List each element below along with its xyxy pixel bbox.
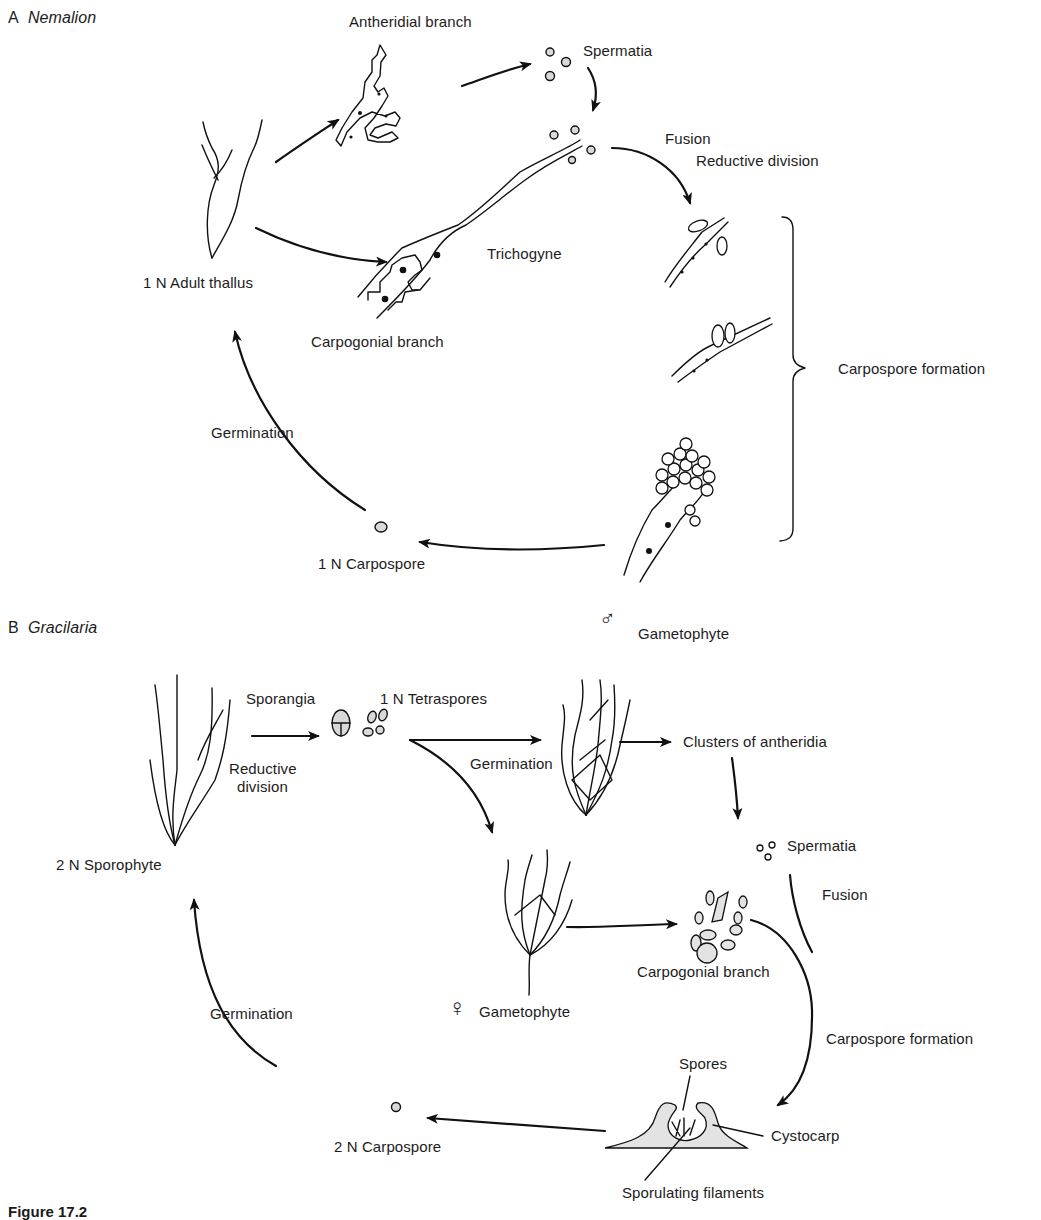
spermatia-b-drawing (757, 842, 775, 860)
fusion-stage-drawing (665, 218, 728, 287)
carpogonial-branch-label: Carpogonial branch (311, 333, 444, 351)
spermatia-b-label: Spermatia (787, 837, 856, 855)
clusters-of-antheridia-label: Clusters of antheridia (683, 733, 827, 751)
antheridial-branch-drawing (336, 45, 400, 146)
sporulating-filaments-label: Sporulating filaments (622, 1184, 764, 1202)
carpogonial-branch-b-label: Carpogonial branch (637, 963, 770, 981)
germination-a-label: Germination (211, 424, 294, 442)
spermatia-drawing (546, 48, 571, 81)
panel-b-title: B Gracilaria (8, 619, 97, 637)
division-label: division (237, 778, 288, 796)
panel-a-arrows (235, 64, 690, 549)
tetraspores-drawing (332, 708, 389, 736)
reductive-division-label: Reductive division (696, 152, 819, 170)
carpospore-formation-bracket (780, 217, 805, 541)
germination-b-top-label: Germination (470, 755, 553, 773)
tetraspores-label: 1 N Tetraspores (380, 690, 487, 708)
carpogonial-branch-drawing (358, 126, 595, 318)
carpogonial-branch-b-drawing (691, 891, 747, 963)
female-gametophyte-label: Gametophyte (479, 1003, 570, 1021)
adult-thallus-label: 1 N Adult thallus (143, 274, 253, 292)
fusion-label: Fusion (665, 130, 711, 148)
antheridial-branch-label: Antheridial branch (349, 13, 472, 31)
male-symbol: ♂ (599, 610, 616, 628)
panel-a-title: A Nemalion (8, 9, 96, 27)
sporophyte-drawing (150, 675, 230, 845)
reductive-label: Reductive (229, 760, 297, 778)
fusion-curve (751, 920, 812, 1105)
panel-a-genus: Nemalion (28, 9, 96, 26)
germination-b-left-label: Germination (210, 1005, 293, 1023)
cystocarp-drawing (605, 1076, 763, 1180)
sporangia-label: Sporangia (246, 690, 315, 708)
carpospore-b-label: 2 N Carpospore (334, 1138, 441, 1156)
sporophyte-label: 2 N Sporophyte (56, 856, 162, 874)
mature-carposporophyte-drawing (624, 438, 715, 582)
spermatia-label: Spermatia (583, 42, 652, 60)
fusion-b-label: Fusion (822, 886, 868, 904)
spermatia-join-curve (790, 875, 812, 952)
male-gametophyte-label: Gametophyte (638, 625, 729, 643)
female-symbol: ♀ (448, 999, 466, 1017)
adult-thallus-drawing (202, 120, 262, 258)
panel-b-genus: Gracilaria (28, 619, 97, 636)
cystocarp-label: Cystocarp (771, 1127, 839, 1145)
trichogyne-label: Trichogyne (487, 245, 562, 263)
spores-label: Spores (679, 1055, 727, 1073)
male-gametophyte-drawing (562, 680, 630, 815)
carpospore-formation-label: Carpospore formation (838, 360, 985, 378)
figure-caption: Figure 17.2 (8, 1203, 87, 1220)
carpospore-drawing (375, 522, 387, 532)
carpospore-b-drawing (392, 1103, 401, 1112)
carpospore-initiation-drawing (672, 318, 772, 382)
carpospore-formation-b-label: Carpospore formation (826, 1030, 973, 1048)
female-gametophyte-drawing (505, 850, 572, 995)
panel-b-letter: B (8, 619, 19, 636)
panel-a-letter: A (8, 9, 19, 26)
panel-a-artwork (202, 45, 805, 582)
carpospore-a-label: 1 N Carpospore (318, 555, 425, 573)
